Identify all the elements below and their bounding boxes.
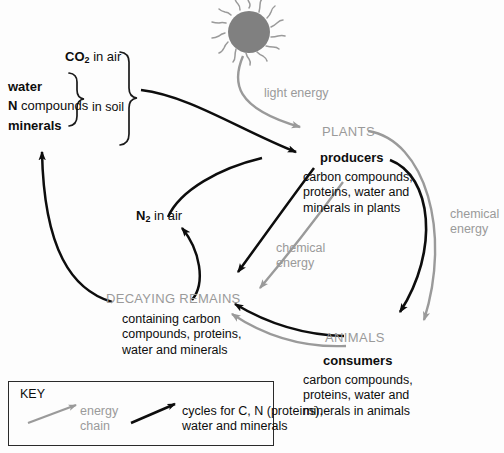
co2-suffix: in air [90, 49, 122, 64]
animals-body-line-2: proteins, water and [303, 388, 413, 403]
key-energy-chain-label: energy chain [80, 404, 118, 435]
label-co2-in-air: CO2 in air [65, 49, 121, 66]
label-consumers: consumers [323, 353, 392, 369]
chemical-energy-middle-line-1: chemical [276, 241, 325, 256]
plants-body-line-3: minerals in plants [303, 201, 413, 216]
label-in-soil: in soil [92, 100, 124, 115]
label-chemical-energy-right: chemical energy [450, 207, 499, 238]
label-n2-in-air: N2 in air [136, 208, 182, 225]
label-decaying-remains-heading: DECAYING REMAINS [106, 291, 241, 307]
key-cycles-line-2: water and minerals [182, 419, 323, 434]
co2-formula: CO [65, 49, 85, 64]
chemical-energy-right-line-2: energy [450, 222, 499, 237]
n-compounds-text: compounds [17, 98, 88, 113]
decay-body-line-3: water and minerals [122, 343, 242, 358]
n2-formula: N [136, 208, 145, 223]
n-symbol: N [8, 98, 17, 113]
key-cycles-label: cycles for C, N (proteins), water and mi… [182, 404, 323, 435]
key-energy-line-2: chain [80, 419, 118, 434]
animals-body-line-1: carbon compounds, [303, 373, 413, 388]
sun-icon [212, 0, 285, 65]
plants-body-line-2: proteins, water and [303, 185, 413, 200]
decay-body-line-1: containing carbon [122, 312, 242, 327]
diagram-canvas: CO2 in air water N compounds minerals in… [0, 0, 504, 453]
key-title: KEY [20, 387, 45, 402]
label-producers: producers [320, 150, 384, 166]
plants-body-text: carbon compounds, proteins, water and mi… [303, 170, 413, 216]
label-n-compounds: N compounds [8, 98, 88, 114]
chemical-energy-right-line-1: chemical [450, 207, 499, 222]
chemical-energy-middle-line-2: energy [276, 256, 325, 271]
label-light-energy: light energy [264, 86, 329, 101]
decay-body-line-2: compounds, proteins, [122, 327, 242, 342]
label-plants-heading: PLANTS [322, 124, 375, 140]
key-cycles-line-1: cycles for C, N (proteins), [182, 404, 323, 419]
n2-suffix: in air [150, 208, 182, 223]
decay-body-text: containing carbon compounds, proteins, w… [122, 312, 242, 358]
label-minerals: minerals [8, 118, 61, 134]
label-chemical-energy-middle: chemical energy [276, 241, 325, 272]
arrow-decay-to-soil [42, 152, 112, 302]
brace-outer-pools [120, 52, 137, 145]
arrow-decay-to-nitrogen [182, 228, 200, 300]
plants-body-line-1: carbon compounds, [303, 170, 413, 185]
key-energy-line-1: energy [80, 404, 118, 419]
label-animals-heading: ANIMALS [325, 330, 385, 346]
label-water: water [8, 79, 42, 95]
